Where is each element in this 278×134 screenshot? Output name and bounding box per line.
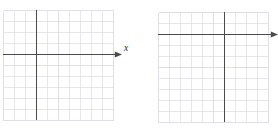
left-graph-panel: y x [3,10,128,122]
right-graph-panel: y x [158,12,278,124]
grid-lines [159,13,269,123]
left-graph-canvas [3,10,128,122]
right-graph-canvas [158,12,278,124]
figure-root: y x y x [0,0,278,134]
axes [158,12,278,122]
left-graph-x-axis-label: x [124,44,128,54]
axes [3,10,122,120]
right-graph-y-axis-label: y [226,0,230,1]
grid-lines [4,11,114,121]
caption-strip [0,121,278,134]
